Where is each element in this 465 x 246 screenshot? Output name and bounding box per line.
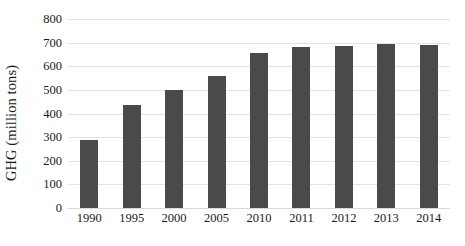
bar	[80, 140, 98, 209]
bar	[292, 47, 310, 208]
x-axis-tick-label: 1995	[110, 212, 152, 225]
x-axis-tick-label: 2010	[238, 212, 280, 225]
y-axis-tick-label: 200	[43, 155, 62, 168]
bar	[377, 44, 395, 208]
x-axis-tick-labels: 199019952000200520102011201220132014	[68, 212, 450, 232]
y-axis-tick-label: 300	[43, 131, 62, 144]
bar	[335, 46, 353, 208]
y-axis-title: GHG (million tons)	[0, 0, 22, 246]
bar	[165, 90, 183, 208]
y-axis-tick-labels: 0100200300400500600700800	[20, 19, 62, 208]
y-axis-tick-label: 700	[43, 37, 62, 50]
bar	[250, 53, 268, 208]
bar	[123, 105, 141, 208]
x-axis-tick-label: 2005	[195, 212, 237, 225]
y-axis-tick-label: 100	[43, 178, 62, 191]
y-axis-tick-label: 0	[56, 202, 62, 215]
bars-layer	[68, 19, 450, 208]
y-axis-tick-label: 800	[43, 13, 62, 26]
x-axis-tick-label: 2013	[365, 212, 407, 225]
x-axis-tick-label: 2014	[408, 212, 450, 225]
bar	[420, 45, 438, 208]
y-axis-tick-label: 600	[43, 60, 62, 73]
x-axis-tick-label: 1990	[68, 212, 110, 225]
x-axis-tick-label: 2000	[153, 212, 195, 225]
bar	[208, 76, 226, 208]
ghg-bar-chart: GHG (million tons) 010020030040050060070…	[0, 0, 465, 246]
y-axis-tick-label: 400	[43, 108, 62, 121]
x-axis-tick-label: 2011	[280, 212, 322, 225]
x-axis-tick-label: 2012	[323, 212, 365, 225]
y-axis-tick-label: 500	[43, 84, 62, 97]
gridline	[68, 208, 450, 209]
